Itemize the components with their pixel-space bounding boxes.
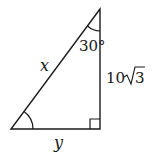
top-angle-arc: [88, 26, 101, 31]
hypotenuse-label: x: [40, 56, 49, 75]
bottom-left-angle-arc: [24, 112, 33, 130]
base-label: y: [53, 133, 64, 152]
triangle-diagram: 30° x y 10 3: [0, 0, 152, 155]
right-angle-mark: [90, 119, 100, 129]
vertical-side-radicand: 3: [135, 69, 145, 87]
vertical-side-coefficient: 10: [106, 69, 125, 87]
triangle: [11, 9, 100, 129]
vertical-side-label: 10 3: [106, 67, 145, 87]
top-angle-label: 30°: [79, 37, 106, 55]
